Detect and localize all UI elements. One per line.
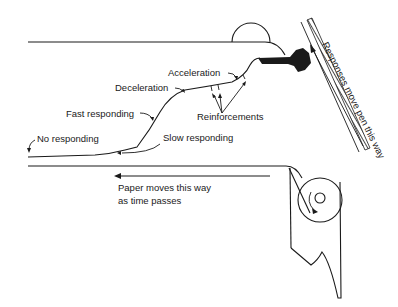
label-paper-moves-line1: Paper moves this way [118, 182, 211, 193]
paper-sheet-lower [289, 168, 341, 298]
label-fast-responding: Fast responding [66, 108, 134, 119]
label-no-responding: No responding [37, 133, 99, 144]
pen-holder [258, 48, 311, 72]
top-roller [232, 23, 270, 42]
label-deceleration: Deceleration [115, 82, 168, 93]
cumulative-recorder-diagram: Acceleration Deceleration Fast respondin… [0, 0, 398, 307]
paper-direction-arrow [114, 173, 270, 179]
label-reinforcements: Reinforcements [197, 111, 264, 122]
label-paper-moves-line2: as time passes [118, 195, 182, 206]
pen-guide-rail [301, 18, 370, 152]
label-slow-responding: Slow responding [163, 132, 233, 143]
paper-top-edge [28, 42, 285, 55]
label-acceleration: Acceleration [168, 67, 220, 78]
label-responses-move-pen: Responses move pen this way [320, 40, 387, 160]
reinforcements-arrows [212, 81, 246, 113]
bottom-roller [298, 178, 342, 222]
